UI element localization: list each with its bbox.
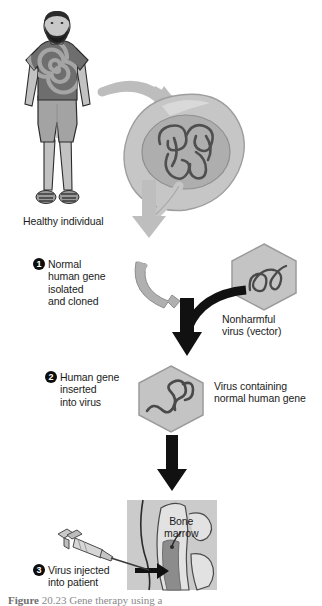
caption-text: Gene therapy using a (69, 594, 162, 606)
healthy-individual-label: Healthy individual (23, 215, 104, 227)
gene-therapy-figure: Healthy individual 1 Normal human (0, 0, 322, 606)
caption-prefix: Figure (8, 594, 39, 606)
figure-caption: Figure 20.23 Gene therapy using a (8, 594, 162, 606)
caption-number: 20.23 (42, 594, 67, 606)
step-1: 1 Normal human gene isolated and cloned (33, 258, 123, 308)
bone-marrow-label: Bone marrow (164, 515, 198, 540)
step-2: 2 Human gene inserted into virus (45, 371, 141, 408)
down-black-arrow-icon (155, 435, 189, 495)
curved-black-arrow-icon (150, 288, 250, 362)
healthy-person-icon (14, 12, 106, 220)
step-3: 3 Virus injected into patient (33, 564, 128, 589)
step-1-text: Normal human gene isolated and cloned (48, 258, 105, 308)
virus-with-gene-hexagon-icon (135, 364, 207, 434)
step-2-text: Human gene inserted into virus (60, 371, 119, 408)
step-3-number: 3 (33, 564, 45, 576)
virus-containing-label: Virus containing normal human gene (214, 380, 306, 405)
step-1-number: 1 (33, 258, 45, 270)
down-gray-arrow-icon (120, 180, 170, 242)
step-2-number: 2 (45, 371, 57, 383)
step-3-text: Virus injected into patient (48, 564, 109, 589)
